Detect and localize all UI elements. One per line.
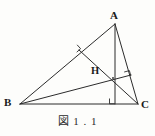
vertex-label-b: B bbox=[4, 97, 11, 108]
right-angle-mark-on-BC bbox=[110, 99, 115, 104]
altitude-from-C bbox=[79, 50, 138, 104]
geometry-figure: A B C H 図 1 . 1 bbox=[0, 0, 155, 136]
orthocenter-label-h: H bbox=[91, 66, 99, 77]
vertex-label-a: A bbox=[110, 10, 118, 21]
segment-CA bbox=[115, 24, 138, 104]
vertex-label-c: C bbox=[141, 99, 149, 110]
orthocenter-point bbox=[112, 77, 114, 79]
figure-caption: 図 1 . 1 bbox=[0, 112, 155, 128]
